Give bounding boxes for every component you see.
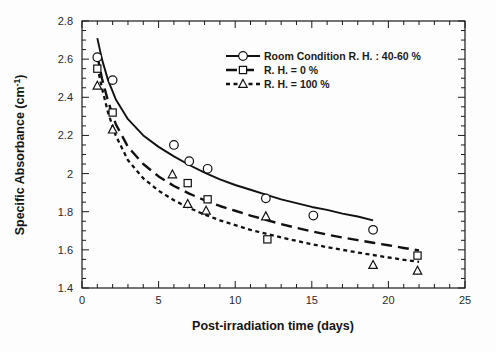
- x-tick-label: 15: [306, 294, 318, 306]
- x-tick-label: 20: [382, 294, 394, 306]
- y-tick-label: 2.2: [58, 129, 73, 141]
- y-tick-label: 1.8: [58, 206, 73, 218]
- marker-circle: [185, 157, 194, 166]
- marker-square: [94, 65, 101, 72]
- marker-square: [414, 252, 421, 259]
- y-tick-label: 2.6: [58, 53, 73, 65]
- x-tick-label: 0: [79, 294, 85, 306]
- chart-background: [0, 0, 496, 352]
- y-tick-label: 2.4: [58, 91, 73, 103]
- svg-text:Specific Absorbance (cm-1): Specific Absorbance (cm-1): [12, 75, 27, 236]
- chart-figure: 0510152025 1.41.61.822.22.42.62.8 Room C…: [0, 0, 496, 352]
- x-tick-label: 5: [156, 294, 162, 306]
- y-axis-title: Specific Absorbance (cm-1): [12, 75, 27, 236]
- marker-circle: [108, 76, 117, 85]
- marker-circle: [239, 52, 248, 61]
- x-tick-label: 10: [229, 294, 241, 306]
- marker-circle: [203, 165, 212, 174]
- marker-square: [204, 196, 211, 203]
- y-tick-label: 2.8: [58, 15, 73, 27]
- marker-circle: [170, 141, 179, 150]
- marker-square: [239, 66, 246, 73]
- y-axis-title-tail: ): [13, 75, 27, 79]
- legend-label: R. H. = 0 %: [264, 64, 319, 76]
- y-tick-label: 1.6: [58, 244, 73, 256]
- marker-circle: [309, 211, 318, 220]
- marker-circle: [93, 53, 102, 62]
- marker-square: [109, 109, 116, 116]
- y-tick-label: 1.4: [58, 282, 73, 294]
- marker-square: [184, 180, 191, 187]
- legend-label: Room Condition R. H. : 40-60 %: [264, 50, 422, 62]
- y-tick-label: 2: [67, 168, 73, 180]
- x-axis-title: Post-irradiation time (days): [192, 319, 354, 333]
- x-tick-label: 25: [459, 294, 471, 306]
- marker-square: [264, 236, 271, 243]
- marker-circle: [262, 194, 271, 203]
- legend-label: R. H. = 100 %: [264, 78, 330, 90]
- absorbance-vs-time-chart: 0510152025 1.41.61.822.22.42.62.8 Room C…: [0, 0, 496, 352]
- marker-circle: [369, 226, 378, 235]
- y-axis-title-main: Specific Absorbance (cm: [13, 86, 27, 235]
